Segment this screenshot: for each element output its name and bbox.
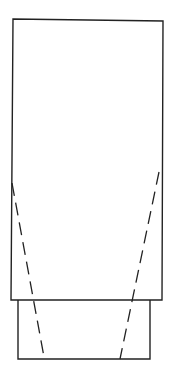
left-hidden-taper-line bbox=[12, 183, 44, 357]
lower-base-outline bbox=[18, 300, 150, 359]
upper-body-outline bbox=[11, 19, 163, 300]
right-hidden-taper-line bbox=[120, 172, 159, 359]
patent-drawing bbox=[0, 0, 172, 376]
